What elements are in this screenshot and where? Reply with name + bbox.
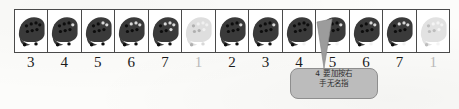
callout-line-2: 手无名指: [290, 79, 378, 89]
degree-label: 7: [148, 53, 182, 73]
callout-text: 4 要加按右 手无名指: [290, 69, 378, 89]
degree-label: 3: [14, 53, 48, 73]
degree-label: 4: [48, 53, 82, 73]
fingering-cell[interactable]: [249, 10, 282, 52]
degree-label: 5: [81, 53, 115, 73]
fingering-cell[interactable]: [350, 10, 383, 52]
scale-degree-labels: 3 4 5 6 7 1 2 3 4 5 6 7 1: [14, 53, 450, 73]
fingering-cell[interactable]: [182, 10, 215, 52]
ocarina-fingering-icon: [250, 12, 280, 51]
fingering-cell[interactable]: [216, 10, 249, 52]
fingering-cell[interactable]: [149, 10, 182, 52]
ocarina-fingering-icon: [351, 12, 381, 51]
fingering-cell[interactable]: [417, 10, 449, 52]
degree-label: 6: [115, 53, 149, 73]
degree-label: 1: [416, 53, 450, 73]
ocarina-fingering-icon: [83, 12, 113, 51]
fingering-chart-strip: [14, 9, 450, 53]
ocarina-fingering-icon: [49, 12, 79, 51]
fingering-cell[interactable]: [383, 10, 416, 52]
callout-pointer-icon: [304, 6, 344, 68]
callout-annotation[interactable]: 4 要加按右 手无名指: [290, 62, 378, 99]
degree-label: 1: [182, 53, 216, 73]
ocarina-fingering-icon: [183, 12, 213, 51]
ocarina-fingering-icon: [217, 12, 247, 51]
ocarina-fingering-icon: [384, 12, 414, 51]
fingering-cell[interactable]: [48, 10, 81, 52]
ocarina-fingering-icon: [418, 12, 448, 51]
fingering-cell[interactable]: [115, 10, 148, 52]
callout-line-1: 4 要加按右: [290, 69, 378, 79]
ocarina-fingering-icon: [150, 12, 180, 51]
fingering-cell[interactable]: [15, 10, 48, 52]
degree-label: 7: [383, 53, 417, 73]
ocarina-fingering-icon: [16, 12, 46, 51]
fingering-cell[interactable]: [82, 10, 115, 52]
degree-label: 2: [215, 53, 249, 73]
ocarina-fingering-icon: [116, 12, 146, 51]
degree-label: 3: [249, 53, 283, 73]
